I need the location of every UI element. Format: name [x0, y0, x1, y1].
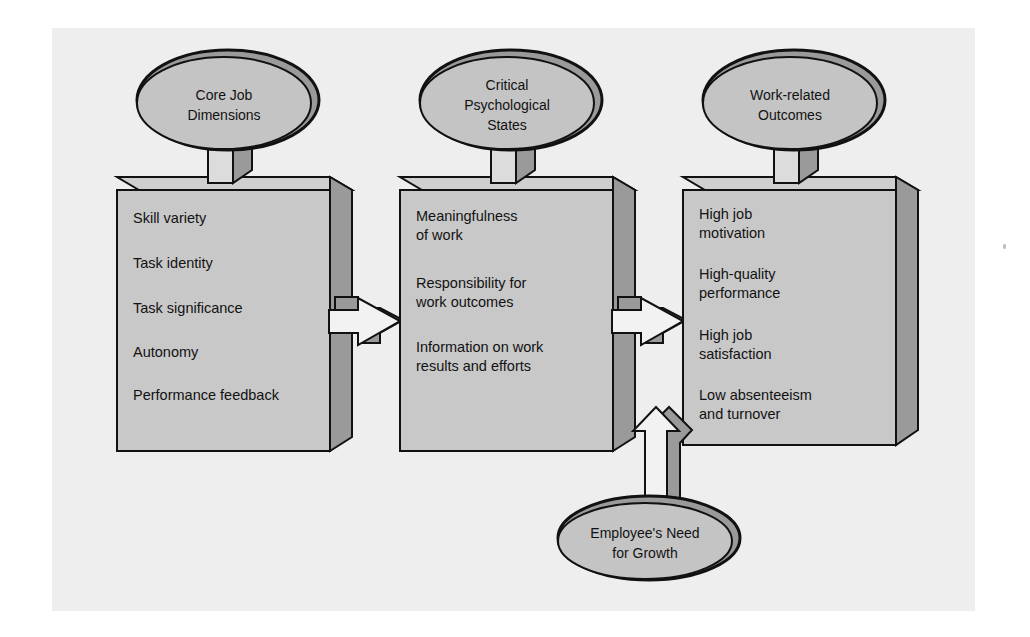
ellipse-work-related-outcomes: Work-related Outcomes: [703, 50, 885, 150]
ellipse3-line-0: Work-related: [750, 87, 830, 103]
box1-front-face: [117, 190, 330, 451]
ellipse4-face: [558, 503, 732, 579]
ellipse3-line-1: Outcomes: [758, 107, 822, 123]
ellipse2-line-1: Psychological: [464, 97, 550, 113]
ellipse-critical-psychological-states: Critical Psychological States: [420, 50, 602, 150]
box2-item-2-line-1: results and efforts: [416, 358, 531, 374]
box2-item-2-line-0: Information on work: [416, 339, 544, 355]
box3-side-face: [896, 177, 918, 445]
ellipse1-face: [137, 57, 311, 149]
ellipse-core-job-dimensions: Core Job Dimensions: [137, 50, 319, 150]
box2-item-0-line-0: Meaningfulness: [416, 208, 518, 224]
box3-item-0-line-1: motivation: [699, 225, 765, 241]
figure-root: Skill variety Task identity Task signifi…: [0, 0, 1030, 637]
box3-item-2-line-1: satisfaction: [699, 346, 772, 362]
box1-item-0-line-0: Skill variety: [133, 210, 207, 226]
ellipse2-line-2: States: [487, 117, 527, 133]
box1-item-4-line-0: Performance feedback: [133, 387, 280, 403]
box3-item-1-line-1: performance: [699, 285, 780, 301]
ellipse1-line-0: Core Job: [196, 87, 253, 103]
ellipse4-line-0: Employee's Need: [590, 525, 699, 541]
box3-item-2-line-0: High job: [699, 327, 752, 343]
box-core-job-dimensions: Skill variety Task identity Task signifi…: [117, 177, 352, 451]
box1-item-1-line-0: Task identity: [133, 255, 214, 271]
box3-item-3-line-0: Low absenteeism: [699, 387, 812, 403]
box3-item-3-line-1: and turnover: [699, 406, 781, 422]
box1-item-3-line-0: Autonomy: [133, 344, 199, 360]
ellipse3-face: [703, 57, 877, 149]
box-work-related-outcomes: High job motivation High-quality perform…: [683, 177, 918, 445]
ellipse-employee-need-for-growth: Employee's Need for Growth: [558, 496, 740, 580]
box3-item-0-line-0: High job: [699, 206, 752, 222]
box2-item-0-line-1: of work: [416, 227, 463, 243]
ellipse2-line-0: Critical: [486, 77, 529, 93]
box2-item-1-line-1: work outcomes: [415, 294, 514, 310]
diagram-canvas: Skill variety Task identity Task signifi…: [0, 0, 1030, 637]
box-critical-psychological-states: Meaningfulness of work Responsibility fo…: [400, 177, 635, 451]
ellipse1-line-1: Dimensions: [187, 107, 260, 123]
ellipse4-line-1: for Growth: [612, 545, 677, 561]
box2-item-1-line-0: Responsibility for: [416, 275, 527, 291]
box3-item-1-line-0: High-quality: [699, 266, 776, 282]
box1-item-2-line-0: Task significance: [133, 300, 243, 316]
